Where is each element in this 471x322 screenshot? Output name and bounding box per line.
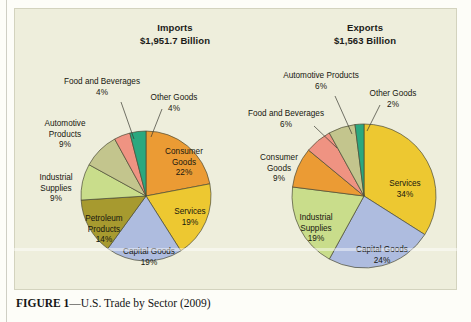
pie-chart-canvas: ConsumerGoods22%Services19%Capital Goods… [14,8,457,290]
pie-label-other-goods: Other Goods4% [151,93,198,113]
imports-title-text: Imports [100,22,250,35]
figure-caption: FIGURE 1—U.S. Trade by Sector (2009) [16,297,211,309]
imports-subtitle-text: $1,951.7 Billion [100,35,250,48]
exports-title-text: Exports [290,22,440,35]
figure-caption-prefix: FIGURE 1 [16,297,69,309]
exports-chart-title: Exports $1,563 Billion [290,22,440,47]
chart-panel: ConsumerGoods22%Services19%Capital Goods… [14,8,457,290]
pie-label-automotive-products: Automotive Products6% [283,71,359,91]
figure-caption-text: —U.S. Trade by Sector (2009) [69,297,210,309]
pie-label-food-and-beverages: Food and Beverages6% [248,109,324,129]
pie-label-industrial-supplies: IndustrialSupplies9% [39,173,72,203]
figure-root: ConsumerGoods22%Services19%Capital Goods… [0,0,471,322]
imports-pie-chart: ConsumerGoods22%Services19%Capital Goods… [39,77,211,267]
exports-pie-chart: Services34%Capital Goods24%IndustrialSup… [248,71,436,268]
pie-label-food-and-beverages: Food and Beverages4% [64,77,140,97]
pie-label-consumer-goods: ConsumerGoods9% [260,153,298,183]
page-margin-rule [6,0,7,322]
imports-chart-title: Imports $1,951.7 Billion [100,22,250,47]
exports-subtitle-text: $1,563 Billion [290,35,440,48]
pie-label-automotive-products: AutomotiveProducts9% [45,119,86,149]
pie-label-other-goods: Other Goods2% [370,89,417,109]
